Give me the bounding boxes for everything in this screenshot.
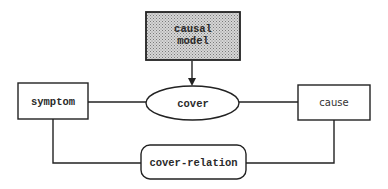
node-cover-relation: cover-relation bbox=[141, 145, 246, 179]
arrowhead-icon bbox=[188, 78, 196, 86]
symptom-label: symptom bbox=[31, 96, 75, 108]
diagram-canvas: causal model cover symptom cause cover-r… bbox=[0, 0, 388, 189]
cause-label: cause bbox=[319, 97, 348, 108]
causal-model-label-line2: model bbox=[177, 35, 209, 47]
node-cover: cover bbox=[146, 86, 239, 120]
node-cause: cause bbox=[298, 85, 370, 120]
node-symptom: symptom bbox=[18, 83, 88, 119]
edge-cover-relation-to-cause bbox=[246, 120, 334, 163]
edge-symptom-to-cover-relation bbox=[53, 119, 141, 163]
cover-label: cover bbox=[177, 98, 209, 110]
node-causal-model: causal model bbox=[146, 12, 240, 60]
causal-model-label-line1: causal bbox=[174, 23, 212, 35]
cover-relation-label: cover-relation bbox=[149, 157, 237, 169]
